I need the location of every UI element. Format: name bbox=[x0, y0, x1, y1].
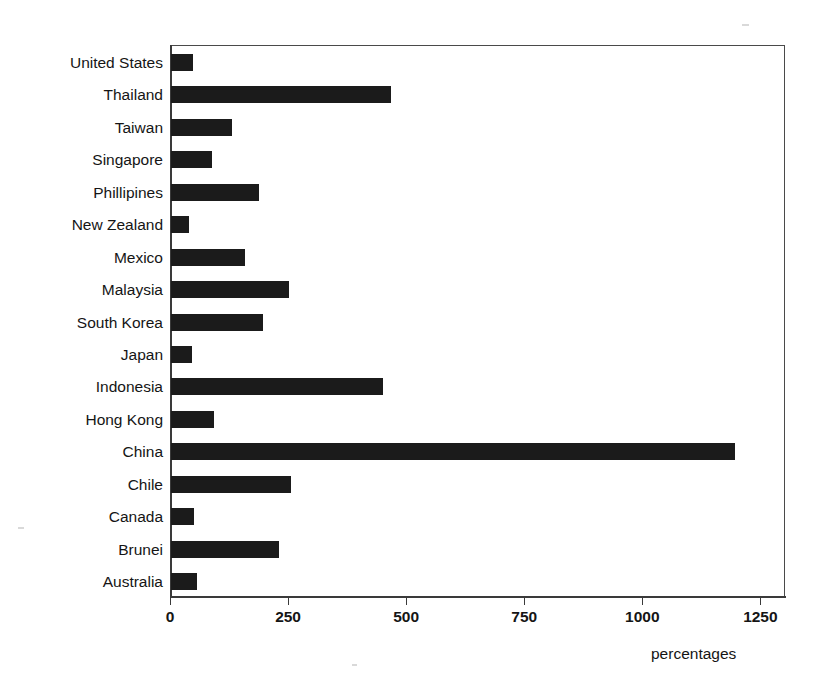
x-axis-tick-mark bbox=[642, 598, 643, 605]
y-axis-label: Hong Kong bbox=[0, 411, 163, 428]
x-axis-tick-label: 1000 bbox=[625, 608, 659, 626]
bar bbox=[171, 411, 214, 428]
x-axis-tick-labels: 025050075010001250 bbox=[0, 598, 818, 638]
bar bbox=[171, 508, 194, 525]
bar bbox=[171, 443, 735, 460]
bar bbox=[171, 119, 232, 136]
x-axis-tick-label: 1250 bbox=[743, 608, 777, 626]
bar bbox=[171, 216, 189, 233]
y-axis-label: Singapore bbox=[0, 151, 163, 168]
y-axis-tick-labels: United StatesThailandTaiwanSingaporePhil… bbox=[0, 45, 163, 597]
y-axis-label: Phillipines bbox=[0, 184, 163, 201]
bar-chart-figure: United StatesThailandTaiwanSingaporePhil… bbox=[0, 0, 818, 692]
x-axis-tick-label: 0 bbox=[166, 608, 175, 626]
bar bbox=[171, 86, 391, 103]
bar bbox=[171, 314, 263, 331]
x-axis-tick-mark bbox=[406, 598, 407, 605]
bars-container bbox=[171, 45, 785, 597]
y-axis-label: United States bbox=[0, 54, 163, 71]
y-axis-label: China bbox=[0, 443, 163, 460]
x-axis-title: percentages bbox=[651, 645, 736, 663]
y-axis-label: Chile bbox=[0, 476, 163, 493]
y-axis-label: Australia bbox=[0, 573, 163, 590]
x-axis-tick-label: 250 bbox=[275, 608, 301, 626]
bar bbox=[171, 184, 259, 201]
bar bbox=[171, 573, 197, 590]
y-axis-label: New Zealand bbox=[0, 216, 163, 233]
bar bbox=[171, 476, 291, 493]
y-axis-label: Malaysia bbox=[0, 281, 163, 298]
scan-speckle bbox=[18, 527, 24, 529]
y-axis-label: Mexico bbox=[0, 249, 163, 266]
bar bbox=[171, 378, 383, 395]
x-axis-tick-label: 750 bbox=[511, 608, 537, 626]
y-axis-label: Brunei bbox=[0, 541, 163, 558]
x-axis-tick-mark bbox=[524, 598, 525, 605]
y-axis-label: Canada bbox=[0, 508, 163, 525]
scan-speckle bbox=[352, 664, 357, 666]
bar bbox=[171, 346, 192, 363]
x-axis-tick-mark bbox=[288, 598, 289, 605]
x-axis-tick-mark bbox=[760, 598, 761, 605]
bar bbox=[171, 151, 212, 168]
scan-speckle bbox=[742, 24, 749, 26]
y-axis-label: Taiwan bbox=[0, 119, 163, 136]
y-axis-label: Indonesia bbox=[0, 378, 163, 395]
bar bbox=[171, 281, 289, 298]
y-axis-label: Thailand bbox=[0, 86, 163, 103]
y-axis-label: Japan bbox=[0, 346, 163, 363]
bar bbox=[171, 54, 193, 71]
y-axis-label: South Korea bbox=[0, 314, 163, 331]
page-title bbox=[30, 0, 670, 3]
x-axis-tick-mark bbox=[170, 598, 171, 605]
x-axis-tick-label: 500 bbox=[393, 608, 419, 626]
bar bbox=[171, 541, 279, 558]
bar bbox=[171, 249, 245, 266]
